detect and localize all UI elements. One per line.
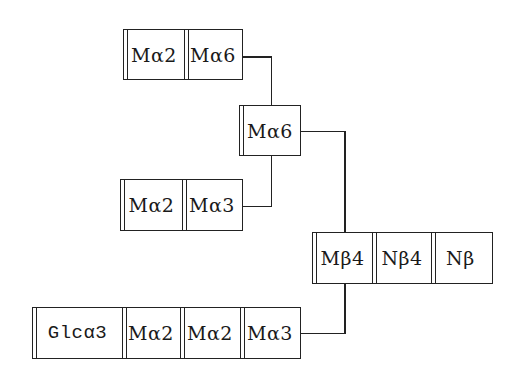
residue-label: Mα3 <box>247 322 293 344</box>
connector-lower-vertical <box>344 283 346 334</box>
residue-middle-m-alpha2: Mα2 <box>120 179 183 231</box>
connector-branch-horizontal <box>301 131 346 133</box>
glycan-diagram: Mα2 Mα6 Mα6 Mα2 Mα3 Mβ4 Nβ4 Nβ Glcα3 Mα2… <box>0 0 523 388</box>
connector-upper-vertical <box>271 56 273 105</box>
residue-label: Mβ4 <box>320 247 364 269</box>
connector-upper-horizontal <box>242 56 272 58</box>
residue-core-n-beta4: Nβ4 <box>372 232 433 284</box>
residue-label: Mα6 <box>190 44 236 66</box>
residue-middle-m-alpha3: Mα3 <box>182 179 243 231</box>
connector-lower-horizontal <box>300 333 346 335</box>
connector-branch-vertical <box>344 131 346 233</box>
residue-lower-m-alpha2-a: Mα2 <box>122 307 181 359</box>
connector-middle-horizontal <box>242 206 272 208</box>
residue-label: Mα2 <box>131 44 177 66</box>
residue-label: Mα3 <box>189 194 235 216</box>
residue-label: Mα2 <box>187 322 233 344</box>
residue-label: Mα2 <box>128 322 174 344</box>
residue-upper-m-alpha2: Mα2 <box>123 29 185 80</box>
connector-middle-vertical <box>271 155 273 207</box>
residue-label: Mα2 <box>129 194 175 216</box>
residue-label: Nβ <box>446 247 475 269</box>
residue-lower-glc-alpha3: Glcα3 <box>32 307 123 359</box>
residue-lower-m-alpha2-b: Mα2 <box>180 307 241 359</box>
residue-upper-m-alpha6: Mα6 <box>184 29 243 80</box>
residue-core-m-beta4: Mβ4 <box>312 232 373 284</box>
residue-label: Mα6 <box>247 120 293 142</box>
residue-label: Glcα3 <box>48 322 108 344</box>
residue-label: Nβ4 <box>381 247 422 269</box>
residue-branch-m-alpha6: Mα6 <box>239 105 301 156</box>
residue-core-n-beta: Nβ <box>431 232 493 284</box>
residue-lower-m-alpha3: Mα3 <box>240 307 301 359</box>
